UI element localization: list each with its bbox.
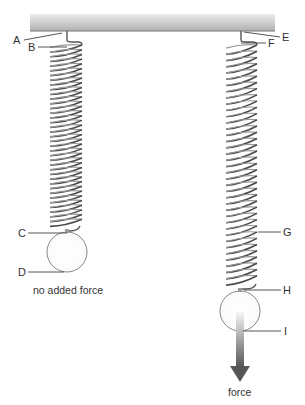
left-top-hook — [67, 31, 82, 45]
caption-force: force — [228, 386, 252, 398]
spring-diagram: A B C D E F G H I no added force force — [0, 0, 305, 405]
label-B: B — [28, 41, 35, 53]
right-spring — [226, 31, 257, 291]
label-H: H — [283, 284, 291, 296]
left-ball-clip — [65, 229, 69, 233]
right-spring-coils — [226, 45, 257, 285]
label-F: F — [268, 37, 275, 49]
caption-no-added-force: no added force — [33, 284, 103, 296]
left-spring — [50, 31, 82, 233]
leader-A — [24, 33, 62, 40]
label-C: C — [18, 227, 26, 239]
label-E: E — [282, 31, 289, 43]
ceiling-bar — [30, 14, 275, 31]
label-G: G — [283, 226, 292, 238]
label-I: I — [284, 325, 287, 337]
left-ball — [47, 232, 87, 272]
right-ball-clip — [238, 288, 242, 292]
label-A: A — [13, 34, 21, 46]
label-D: D — [18, 266, 26, 278]
left-spring-coils — [50, 45, 82, 227]
